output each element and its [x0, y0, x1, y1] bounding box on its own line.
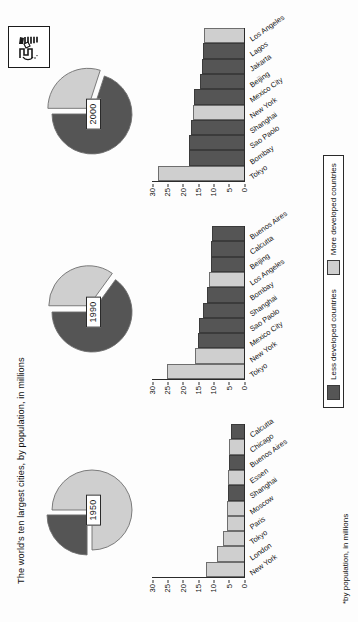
bar[interactable] [203, 43, 244, 58]
value-axis: 051015202530 [152, 184, 244, 208]
value-axis: 051015202530 [152, 580, 244, 604]
chart-page: The world's ten largest cities, by popul… [0, 0, 358, 622]
category-tick: Lagos [246, 43, 304, 58]
axis-tick-label: 5 [224, 184, 233, 192]
axis-tick-label: 25 [163, 382, 172, 394]
bar[interactable] [211, 241, 244, 256]
axis-tick-label: 15 [194, 184, 203, 196]
panel-1990: 1990051015202530TokyoNew YorkMexico City… [40, 218, 308, 406]
axis-tick-label: 0 [240, 580, 249, 588]
bar[interactable] [229, 455, 244, 470]
axis-tick-label: 15 [194, 382, 203, 394]
category-tick: Buenos Aires [246, 226, 304, 241]
bar[interactable] [189, 150, 245, 165]
page-title: The world's ten largest cities, by popul… [16, 357, 26, 584]
category-tick: London [246, 547, 304, 562]
bar[interactable] [158, 166, 244, 181]
axis-tick-label: 30 [148, 382, 157, 394]
bar[interactable] [199, 318, 244, 333]
category-tick: Moscow [246, 501, 304, 516]
bar[interactable] [202, 59, 244, 74]
bar[interactable] [228, 470, 244, 485]
axis-tick-label: 10 [209, 580, 218, 592]
category-label: Calcutta [248, 416, 275, 439]
bar[interactable] [198, 333, 244, 348]
bar[interactable] [212, 226, 245, 241]
category-tick: New York [246, 105, 304, 120]
axis-tick-label: 25 [163, 184, 172, 196]
bar[interactable] [191, 120, 244, 135]
axis-tick-label: 30 [148, 184, 157, 196]
bar[interactable] [227, 501, 244, 516]
bar-chart-1950: 051015202530New YorkLondonTokyoParisMosc… [148, 416, 306, 604]
panel-1950: 1950051015202530New YorkLondonTokyoParis… [40, 416, 308, 604]
pie-chart-2000: 2000 [40, 20, 146, 208]
category-tick: Chicago [246, 439, 304, 454]
category-tick: Tokyo [246, 167, 304, 182]
axis-tick-label: 0 [240, 184, 249, 192]
axis-tick-label: 5 [224, 382, 233, 390]
category-label: Los Angeles [248, 13, 286, 43]
plot-area [152, 424, 245, 578]
category-tick: Beijing [246, 74, 304, 89]
category-tick: Los Angeles [246, 28, 304, 43]
category-tick: Tokyo [246, 365, 304, 380]
category-tick: Sao Paolo [246, 136, 304, 151]
category-tick: Calcutta [246, 241, 304, 256]
bar-chart-2000: 051015202530TokyoBombaySao PaoloShanghai… [148, 20, 306, 208]
bar[interactable] [204, 28, 244, 43]
category-tick: Essen [246, 470, 304, 485]
category-tick: Calcutta [246, 424, 304, 439]
category-label: Buenos Aires [248, 209, 289, 241]
legend-label-less-developed: Less developed countries [329, 289, 338, 380]
bar[interactable] [217, 546, 244, 561]
bar[interactable] [227, 516, 244, 531]
axis-tick-label: 20 [178, 382, 187, 394]
bar[interactable] [194, 89, 244, 104]
category-tick: New York [246, 349, 304, 364]
legend-item-less-developed: Less developed countries [327, 289, 340, 400]
bar-chart-1990: 051015202530TokyoNew YorkMexico CitySao … [148, 218, 306, 406]
axis-tick-label: 25 [163, 580, 172, 592]
bar[interactable] [193, 105, 244, 120]
category-axis: TokyoNew YorkMexico CitySao PaoloShangha… [246, 226, 304, 380]
axis-tick-label: 10 [209, 382, 218, 394]
pie-year-label: 1990 [86, 296, 101, 327]
axis-tick-label: 20 [178, 184, 187, 196]
bar[interactable] [231, 424, 244, 439]
category-tick: Bombay [246, 151, 304, 166]
category-tick: Shanghai [246, 486, 304, 501]
panel-2000: 2000051015202530TokyoBombaySao PaoloShan… [40, 20, 308, 208]
bar[interactable] [228, 485, 244, 500]
bar[interactable] [207, 287, 244, 302]
pie-year-label: 1950 [86, 494, 101, 525]
category-tick: Buenos Aires [246, 455, 304, 470]
bar[interactable] [229, 439, 244, 454]
bar[interactable] [209, 272, 244, 287]
category-tick: Bombay [246, 288, 304, 303]
bar[interactable] [223, 531, 244, 546]
bar[interactable] [211, 257, 244, 272]
axis-tick-label: 15 [194, 580, 203, 592]
bar[interactable] [206, 562, 244, 577]
legend-label-more-developed: More developed countries [329, 163, 338, 255]
pie-year-label: 2000 [86, 98, 101, 129]
category-tick: Beijing [246, 257, 304, 272]
legend-swatch-less-developed [327, 385, 340, 400]
bar[interactable] [167, 364, 244, 379]
legend-item-more-developed: More developed countries [327, 163, 340, 275]
bar[interactable] [195, 348, 244, 363]
value-axis: 051015202530 [152, 382, 244, 406]
category-tick: Shanghai [246, 120, 304, 135]
category-tick: New York [246, 563, 304, 578]
category-tick: Jakarta [246, 59, 304, 74]
bar[interactable] [200, 74, 244, 89]
bar[interactable] [203, 303, 244, 318]
axis-tick-label: 30 [148, 580, 157, 592]
category-tick: Sao Paolo [246, 318, 304, 333]
axis-tick-label: 5 [224, 580, 233, 588]
bar[interactable] [189, 135, 244, 150]
category-tick: Shanghai [246, 303, 304, 318]
category-axis: New YorkLondonTokyoParisMoscowShanghaiEs… [246, 424, 304, 578]
plot-area [152, 226, 245, 380]
